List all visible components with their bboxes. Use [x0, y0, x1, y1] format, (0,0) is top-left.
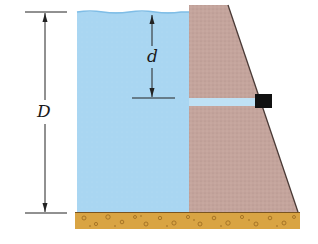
valve-icon: [255, 94, 272, 108]
dam-diagram: [0, 0, 318, 244]
dam: [189, 5, 298, 212]
label-d: d: [147, 48, 158, 65]
ground: [75, 212, 300, 229]
label-D: D: [37, 103, 51, 120]
outlet-pipe: [189, 98, 257, 106]
water-reservoir: [77, 11, 190, 213]
